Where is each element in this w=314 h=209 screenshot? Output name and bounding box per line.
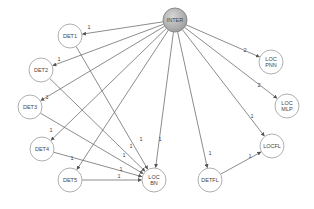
edge-weight-label: 1 <box>139 136 142 142</box>
edge-weight-label: 1 <box>87 24 90 30</box>
node-label: DET2 <box>34 67 48 73</box>
edge-det3-to-locbn <box>40 113 143 174</box>
edge-labels-layer: 1111111122111111 <box>45 24 260 179</box>
node-label: DET1 <box>63 33 77 39</box>
edge-weight-label: 1 <box>208 150 211 156</box>
edge-weight-label: 1 <box>250 113 253 119</box>
node-label: LOCFL <box>263 143 281 149</box>
directed-graph: 1111111122111111 INTERDET1DET2DET3DET4DE… <box>0 0 314 209</box>
edge-weight-label: 1 <box>117 173 120 179</box>
node-label: DET5 <box>63 177 77 183</box>
edge-weight-label: 1 <box>49 127 52 133</box>
edge-weight-label: 1 <box>70 155 73 161</box>
edge-det2-to-locbn <box>50 78 145 171</box>
node-locmlp: LOCMLP <box>275 94 299 118</box>
node-locbn: LOCBN <box>142 168 166 192</box>
edge-detfl-to-locfl <box>221 152 262 174</box>
node-det4: DET4 <box>30 137 54 161</box>
edge-weight-label: 1 <box>57 56 60 62</box>
node-label: BN <box>150 180 158 186</box>
edge-inter-to-locpnn <box>186 25 260 57</box>
node-det5: DET5 <box>58 168 82 192</box>
node-label: LOC <box>265 56 276 62</box>
edge-inter-to-det1 <box>82 22 163 34</box>
edge-weight-label: 1 <box>248 153 251 159</box>
edge-weight-label: 1 <box>45 94 48 100</box>
node-det1: DET1 <box>58 24 82 48</box>
node-label: LOC <box>281 100 292 106</box>
node-label: INTER <box>167 17 184 23</box>
node-det3: DET3 <box>18 95 42 119</box>
node-det2: DET2 <box>29 58 53 82</box>
node-locpnn: LOCPNN <box>259 50 283 74</box>
node-locfl: LOCFL <box>260 134 284 158</box>
node-label: DET3 <box>23 104 37 110</box>
edge-weight-label: 1 <box>129 143 132 149</box>
node-detfl: DETFL <box>198 168 222 192</box>
edge-weight-label: 1 <box>119 166 122 172</box>
edge-inter-to-locbn <box>156 32 174 168</box>
node-label: PNN <box>265 62 277 68</box>
node-label: DET4 <box>35 146 49 152</box>
node-inter: INTER <box>163 8 187 32</box>
edge-inter-to-locfl <box>182 30 264 137</box>
node-label: MLP <box>281 106 293 112</box>
edge-weight-label: 2 <box>243 47 246 53</box>
edge-det1-to-locbn <box>76 46 148 169</box>
diagram-canvas: 1111111122111111 INTERDET1DET2DET3DET4DE… <box>0 0 314 209</box>
edge-weight-label: 1 <box>158 136 161 142</box>
edge-weight-label: 2 <box>257 82 260 88</box>
edge-weight-label: 1 <box>122 152 125 158</box>
edge-inter-to-detfl <box>178 32 208 168</box>
node-label: DETFL <box>201 177 218 183</box>
node-label: LOC <box>148 174 159 180</box>
